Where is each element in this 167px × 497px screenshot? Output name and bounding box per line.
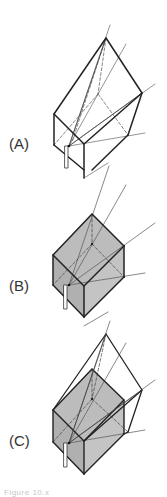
figure-caption: Figure 10.x (4, 488, 50, 497)
panel-a-drawing (54, 25, 155, 178)
panel-c-drawing (53, 321, 155, 474)
panel-b-drawing (53, 166, 155, 326)
figure-stage: (A) (B) (C) (0, 0, 167, 497)
eye-figure-a (65, 145, 70, 168)
figure-drawing (0, 0, 167, 497)
